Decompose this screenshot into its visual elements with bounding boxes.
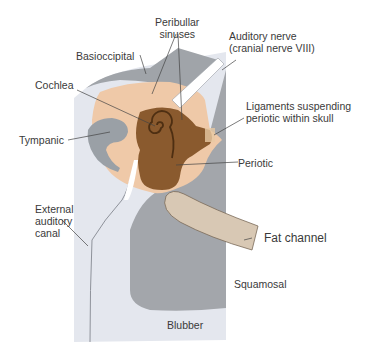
label-cochlea: Cochlea — [35, 79, 74, 91]
label-periotic: Periotic — [238, 157, 273, 169]
label-line: External — [35, 203, 74, 215]
label-peribullar-sinuses: Peribullar sinuses — [155, 16, 199, 40]
label-auditory-nerve: Auditory nerve (cranial nerve VIII) — [229, 30, 315, 54]
label-line: Auditory nerve — [229, 30, 315, 42]
label-basioccipital: Basioccipital — [76, 50, 134, 62]
label-fat-channel: Fat channel — [264, 232, 327, 244]
label-external-auditory-canal: External auditory canal — [35, 203, 74, 239]
label-line: auditory — [35, 215, 74, 227]
label-line: periotic within skull — [246, 112, 351, 124]
label-ligaments: Ligaments suspending periotic within sku… — [246, 100, 351, 124]
label-squamosal: Squamosal — [234, 278, 287, 290]
ear-anatomy-diagram — [0, 0, 371, 359]
label-line: canal — [35, 227, 74, 239]
label-line: Peribullar — [155, 16, 199, 28]
label-tympanic: Tympanic — [19, 134, 64, 146]
label-line: sinuses — [155, 28, 199, 40]
label-line: Ligaments suspending — [246, 100, 351, 112]
ligament-area — [205, 128, 215, 142]
label-blubber: Blubber — [167, 319, 203, 331]
label-line: (cranial nerve VIII) — [229, 42, 315, 54]
